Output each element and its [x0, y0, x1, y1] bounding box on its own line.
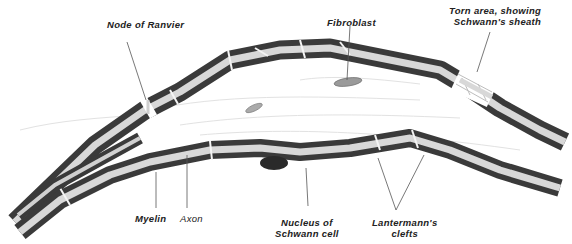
schwann-nucleus [260, 156, 288, 170]
label-nucleus-schwann: Nucleus of Schwann cell [275, 217, 339, 239]
label-fibroblast: Fibroblast [327, 17, 376, 28]
label-axon: Axon [180, 213, 203, 224]
label-lantermann-clefts: Lantermann's clefts [372, 217, 438, 239]
label-myelin: Myelin [135, 213, 166, 224]
label-lantermann-line2: clefts [372, 228, 438, 239]
label-nucleus-line1: Nucleus of [275, 217, 339, 228]
nerve-fiber-illustration [0, 0, 572, 244]
label-nucleus-line2: Schwann cell [275, 228, 339, 239]
label-node-of-ranvier: Node of Ranvier [107, 19, 184, 30]
label-torn-area-line2: Schwann's sheath [449, 16, 541, 27]
label-torn-area-line1: Torn area, showing [449, 5, 541, 16]
fibroblast-small [245, 101, 264, 114]
label-torn-area: Torn area, showing Schwann's sheath [449, 5, 541, 27]
label-lantermann-line1: Lantermann's [372, 217, 438, 228]
